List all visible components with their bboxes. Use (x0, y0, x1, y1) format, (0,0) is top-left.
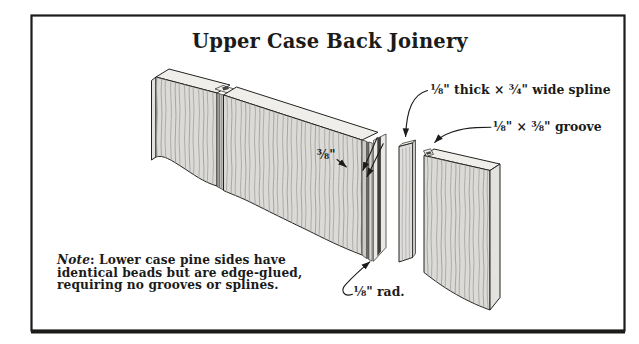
bead-joint-strip (217, 93, 224, 190)
left-board-end-face (152, 77, 157, 160)
middle-board-grooved-edge (362, 134, 386, 261)
joinery-diagram: Upper Case Back Joinery (0, 0, 639, 344)
edge-bead-strip-back (369, 142, 372, 261)
edge-bead-strip-front (362, 140, 367, 259)
groove-annotation: ⅛" × ⅜" groove (493, 119, 602, 134)
joinery-figure: Upper Case Back Joinery (0, 0, 639, 344)
spline-piece (399, 140, 416, 262)
note-line-3: requiring no grooves or splines. (57, 278, 279, 292)
spline-edge-face (413, 140, 416, 258)
spline-annotation: ⅛" thick × ¾" wide spline (431, 82, 611, 97)
right-board-end-face (490, 164, 500, 310)
note-block: Note: Lower case pine sides have identic… (56, 253, 302, 292)
edge-bead-shadow (372, 143, 373, 261)
diagram-title: Upper Case Back Joinery (192, 30, 468, 53)
groove-depth-annotation: ⅜" (317, 148, 336, 162)
bead-radius-annotation: ⅛" rad. (354, 284, 405, 299)
